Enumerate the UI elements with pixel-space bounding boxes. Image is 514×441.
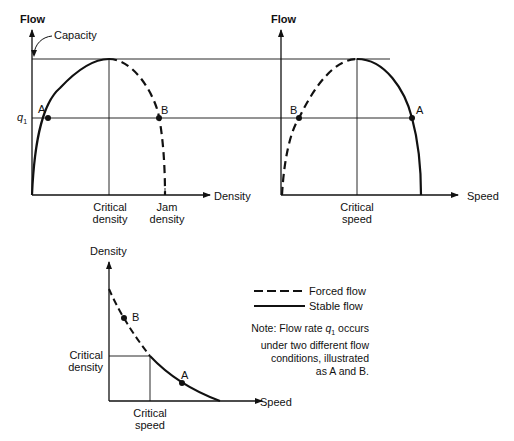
legend-forced-label: Forced flow bbox=[309, 285, 366, 297]
note-text: Note: Flow rate q1 occurs under two diff… bbox=[240, 322, 369, 378]
stable-flow-curve bbox=[32, 59, 109, 195]
point-a-label: A bbox=[38, 103, 45, 115]
flow-density-plot bbox=[31, 30, 412, 195]
flow-speed-plot bbox=[281, 30, 458, 195]
q1-label: q1 bbox=[17, 111, 27, 128]
point-a-label: A bbox=[181, 369, 188, 381]
point-b-label: B bbox=[132, 311, 139, 323]
forced-flow-curve bbox=[109, 289, 150, 356]
legend bbox=[254, 291, 305, 306]
point-b bbox=[121, 315, 127, 321]
legend-stable-label: Stable flow bbox=[309, 300, 363, 312]
point-a-label: A bbox=[416, 104, 423, 116]
critical-density-tick-label: Criticaldensity bbox=[50, 349, 103, 373]
point-b-label: B bbox=[161, 104, 168, 116]
speed-axis-label: Speed bbox=[467, 190, 499, 202]
forced-flow-curve bbox=[282, 59, 357, 195]
critical-speed-tick-label: Criticalspeed bbox=[332, 201, 382, 225]
point-a bbox=[409, 115, 415, 121]
jam-density-tick-label: Jamdensity bbox=[145, 201, 189, 225]
density-axis-label: Density bbox=[90, 245, 127, 257]
capacity-pointer bbox=[34, 36, 52, 54]
critical-speed-tick-label: Criticalspeed bbox=[125, 407, 175, 431]
stable-flow-curve bbox=[357, 59, 421, 195]
flow-axis-label: Flow bbox=[20, 13, 45, 25]
capacity-label: Capacity bbox=[54, 29, 97, 41]
critical-density-tick-label: Criticaldensity bbox=[84, 201, 136, 225]
speed-axis-label: Speed bbox=[260, 396, 292, 408]
forced-flow-curve bbox=[109, 59, 165, 195]
point-b-label: B bbox=[290, 104, 297, 116]
point-a bbox=[45, 115, 51, 121]
flow-axis-label: Flow bbox=[271, 13, 296, 25]
density-axis-label: Density bbox=[214, 190, 251, 202]
